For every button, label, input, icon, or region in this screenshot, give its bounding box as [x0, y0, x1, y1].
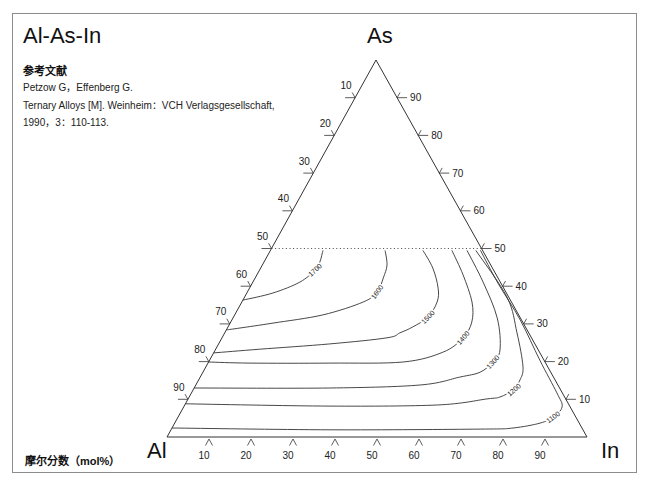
- isotherm-1600: [226, 250, 387, 330]
- left-edge-axis: 102030405060708090: [173, 80, 355, 399]
- vertex-label-as: As: [367, 23, 393, 48]
- left-edge-tick-label: 70: [215, 306, 227, 317]
- ternary-plot: 1020304050607080909080706050403020101020…: [167, 60, 590, 461]
- vertex-label-al: Al: [147, 438, 167, 463]
- bottom-edge-tick: [542, 439, 549, 446]
- left-edge-tick-label: 10: [341, 80, 353, 91]
- bottom-edge-tick: [416, 439, 423, 446]
- reference-line-publication: Ternary Alloys [M]. Weinheim：VCH Verlags…: [23, 100, 275, 111]
- reference-block: 参考文献 Petzow G，Effenberg G. Ternary Alloy…: [23, 64, 275, 128]
- page-title: Al-As-In: [23, 23, 101, 48]
- isotherm-group: 1700160015001400130012001100: [172, 250, 562, 429]
- vertex-label-in: In: [601, 438, 619, 463]
- left-edge-tick-label: 20: [320, 118, 332, 129]
- right-edge-tick-label: 30: [537, 318, 549, 329]
- left-edge-tick: [178, 394, 188, 399]
- bottom-edge-tick-label: 30: [282, 450, 294, 461]
- bottom-edge-tick-label: 40: [324, 450, 336, 461]
- right-edge-tick: [418, 130, 428, 135]
- bottom-edge-tick: [206, 439, 213, 446]
- bottom-edge-tick: [458, 439, 465, 446]
- reference-line-authors: Petzow G，Effenberg G.: [23, 82, 133, 93]
- left-edge-tick: [282, 206, 292, 211]
- left-edge-tick: [324, 130, 334, 135]
- right-edge-tick: [545, 356, 555, 361]
- left-edge-tick-label: 60: [236, 269, 248, 280]
- right-edge-tick-label: 20: [558, 356, 570, 367]
- bottom-edge-tick: [290, 439, 297, 446]
- bottom-edge-tick: [332, 439, 339, 446]
- bottom-edge-tick-label: 20: [240, 450, 252, 461]
- reference-heading: 参考文献: [23, 64, 67, 77]
- isotherm-label-1600: 1600: [370, 283, 385, 300]
- triangle-outline: [167, 60, 587, 437]
- bottom-edge-tick-label: 70: [450, 450, 462, 461]
- left-edge-tick: [220, 319, 230, 324]
- left-edge-tick-label: 40: [278, 193, 290, 204]
- left-edge-tick-label: 80: [194, 344, 206, 355]
- right-edge-tick-label: 50: [495, 243, 507, 254]
- right-edge-tick: [482, 243, 492, 248]
- right-edge-tick: [460, 206, 470, 211]
- left-edge-tick: [199, 356, 209, 361]
- right-edge-tick-label: 80: [431, 130, 443, 141]
- phase-diagram-figure: Al-As-In 参考文献 Petzow G，Effenberg G. Tern…: [0, 0, 645, 488]
- right-edge-tick: [566, 394, 576, 399]
- isotherm-label-1400: 1400: [455, 330, 470, 347]
- right-edge-tick-label: 60: [473, 205, 485, 216]
- bottom-edge-tick: [374, 439, 381, 446]
- right-edge-tick: [503, 281, 513, 286]
- isotherm-1400: [209, 250, 473, 363]
- bottom-edge-tick-label: 80: [492, 450, 504, 461]
- bottom-edge-axis: 102030405060708090: [198, 439, 548, 461]
- bottom-edge-tick-label: 50: [366, 450, 378, 461]
- right-edge-tick-label: 40: [516, 281, 528, 292]
- isotherm-label-1200: 1200: [506, 382, 523, 397]
- left-edge-tick-label: 90: [173, 382, 185, 393]
- right-edge-tick-label: 90: [410, 92, 422, 103]
- reference-line-year-pages: 1990，3：110-113.: [23, 117, 109, 128]
- left-edge-tick: [241, 281, 251, 286]
- isotherm-label-1700: 1700: [307, 262, 323, 278]
- right-edge-tick-label: 10: [579, 394, 591, 405]
- axis-unit-label: 摩尔分数（mol%）: [25, 454, 120, 467]
- bottom-edge-tick: [248, 439, 255, 446]
- right-edge-tick: [397, 93, 407, 98]
- left-edge-tick-label: 50: [257, 231, 269, 242]
- right-edge-tick: [439, 168, 449, 173]
- bottom-edge-tick-label: 60: [408, 450, 420, 461]
- bottom-edge-tick: [500, 439, 507, 446]
- left-edge-tick-label: 30: [299, 156, 311, 167]
- bottom-edge-tick-label: 90: [534, 450, 546, 461]
- bottom-edge-tick-label: 10: [198, 450, 210, 461]
- right-edge-tick: [524, 319, 534, 324]
- left-edge-tick: [345, 93, 355, 98]
- isotherm-label-1500: 1500: [420, 309, 436, 325]
- isotherm-1500: [214, 250, 439, 353]
- right-edge-tick-label: 70: [452, 168, 464, 179]
- left-edge-tick: [303, 168, 313, 173]
- left-edge-tick: [262, 243, 272, 248]
